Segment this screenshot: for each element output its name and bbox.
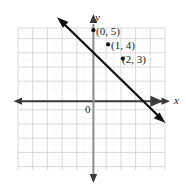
point-label-2-3: (2, 3): [122, 53, 146, 65]
data-point-1-4: [106, 42, 110, 46]
axes-group: [14, 14, 171, 183]
point-label-0-5: (0, 5): [96, 25, 120, 37]
origin-label: 0: [85, 103, 91, 115]
y-axis-arrow-bottom: [90, 174, 98, 183]
graph-figure: y x 0 (0, 5) (1, 4) (2, 3): [0, 0, 186, 188]
y-axis-label: y: [95, 11, 100, 23]
x-axis-label: x: [174, 94, 179, 106]
point-label-1-4: (1, 4): [111, 39, 135, 51]
coordinate-plane-svg: [0, 0, 186, 188]
x-axis-arrow-right: [162, 98, 171, 105]
data-point-0-5: [91, 28, 95, 32]
